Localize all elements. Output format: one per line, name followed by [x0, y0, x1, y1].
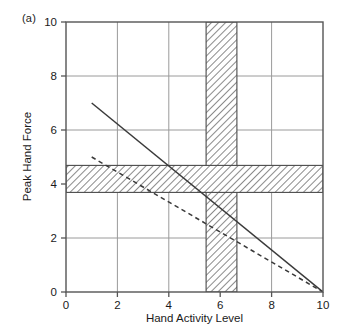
plot-background: [66, 22, 323, 292]
xaxis-tick-marks: [66, 292, 323, 297]
xaxis-tick-label-6: 6: [205, 299, 235, 311]
figure-panel-a: (a): [0, 0, 345, 333]
band-hand-activity-level: [206, 22, 237, 292]
chart-plot-area: [0, 0, 345, 333]
yaxis-tick-label-8: 8: [31, 70, 57, 82]
yaxis-tick-label-6: 6: [31, 124, 57, 136]
yaxis-tick-label-2: 2: [31, 232, 57, 244]
yaxis-tick-label-10: 10: [31, 16, 57, 28]
yaxis-tick-label-4: 4: [31, 178, 57, 190]
xaxis-tick-label-10: 10: [308, 299, 338, 311]
yaxis-tick-label-0: 0: [31, 286, 57, 298]
xaxis-tick-label-4: 4: [154, 299, 184, 311]
band-peak-hand-force: [66, 165, 323, 192]
xaxis-title: Hand Activity Level: [66, 312, 323, 325]
yaxis-title: Peak Hand Force: [21, 77, 34, 237]
xaxis-tick-label-0: 0: [51, 299, 81, 311]
xaxis-tick-label-8: 8: [257, 299, 287, 311]
yaxis-tick-marks: [61, 22, 66, 292]
xaxis-tick-label-2: 2: [102, 299, 132, 311]
